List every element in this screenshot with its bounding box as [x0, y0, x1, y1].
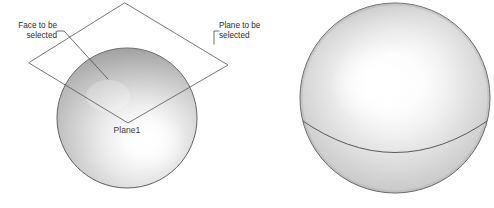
face-callout-line1: Face to be — [18, 21, 57, 30]
left-sphere-secondary-highlight — [86, 80, 130, 112]
plane-callout-line2: selected — [219, 31, 250, 40]
face-callout: Face to be selected — [18, 21, 57, 40]
plane-callout: Plane to be selected — [219, 21, 261, 40]
scene-canvas: Face to be selected Plane to be selected… — [0, 0, 494, 208]
left-sphere-specular — [118, 112, 186, 172]
plane1-label: Plane1 — [114, 125, 141, 135]
right-sphere-group — [300, 3, 490, 193]
right-sphere-specular — [330, 44, 422, 124]
left-sphere-group — [57, 48, 197, 188]
face-callout-line2: selected — [27, 31, 58, 40]
plane-callout-line1: Plane to be — [219, 21, 261, 30]
illustration-root: Face to be selected Plane to be selected… — [0, 0, 494, 208]
